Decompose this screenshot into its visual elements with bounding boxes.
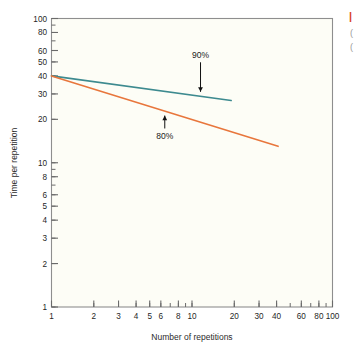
x-tick-label: 2 (92, 312, 97, 321)
series-annotation-label: 80% (156, 131, 173, 141)
x-tick-label: 10 (187, 312, 197, 321)
y-tick-label: 8 (42, 173, 47, 182)
edge-text-fragment-line2: ( (350, 42, 360, 52)
y-tick-label: 6 (42, 191, 47, 200)
y-tick-label: 1 (42, 303, 47, 312)
y-tick-label: 10 (38, 159, 48, 168)
edge-text-fragment-heading: | (349, 11, 360, 22)
x-tick-label: 40 (272, 312, 282, 321)
edge-text-fragment-line1: ( (350, 28, 360, 38)
plot-area-background (52, 19, 333, 308)
y-axis-ticks (52, 19, 59, 308)
y-tick-label: 5 (42, 202, 47, 211)
x-tick-label: 100 (326, 312, 340, 321)
learning-curve-chart: 123456810203040506080100 123456810203040… (0, 0, 360, 348)
y-tick-label: 50 (38, 58, 48, 67)
y-tick-label: 30 (38, 90, 48, 99)
x-tick-label: 30 (254, 312, 264, 321)
x-axis-title: Number of repetitions (151, 332, 232, 342)
x-tick-label: 80 (314, 312, 324, 321)
x-tick-label: 3 (116, 312, 121, 321)
x-tick-label: 5 (147, 312, 152, 321)
y-tick-label: 60 (38, 47, 48, 56)
x-tick-label: 20 (230, 312, 240, 321)
x-tick-label: 4 (134, 312, 139, 321)
x-axis-tick-labels: 1234568102030406080100 (49, 312, 340, 321)
y-tick-label: 20 (38, 115, 48, 124)
x-tick-label: 1 (49, 312, 54, 321)
y-tick-label: 80 (38, 28, 48, 37)
y-tick-label: 40 (38, 72, 48, 81)
y-tick-label: 2 (42, 260, 47, 269)
y-axis-title: Time per repetition (9, 127, 19, 198)
x-tick-label: 60 (297, 312, 307, 321)
y-tick-label: 3 (42, 234, 47, 243)
y-axis-tick-labels: 123456810203040506080100 (33, 15, 47, 313)
y-tick-label: 100 (33, 15, 47, 24)
series-annotation-label: 90% (192, 50, 209, 60)
y-tick-label: 4 (42, 216, 47, 225)
x-tick-label: 6 (159, 312, 164, 321)
figure-container: 123456810203040506080100 123456810203040… (0, 0, 360, 348)
x-tick-label: 8 (176, 312, 181, 321)
